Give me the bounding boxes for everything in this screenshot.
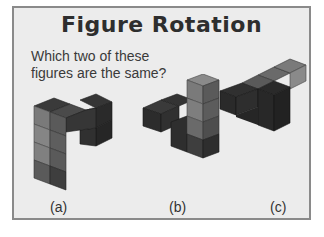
cube-figure-a-icon	[32, 92, 122, 212]
page-title: Figure Rotation	[14, 12, 309, 37]
figure-a-label: (a)	[50, 199, 67, 215]
puzzle-card: Figure Rotation Which two of these figur…	[12, 6, 311, 220]
cube-figure-b-icon	[141, 74, 221, 184]
cube-figure-c-icon	[218, 55, 313, 135]
figure-b-label: (b)	[169, 199, 186, 215]
figure-c-label: (c)	[270, 199, 286, 215]
